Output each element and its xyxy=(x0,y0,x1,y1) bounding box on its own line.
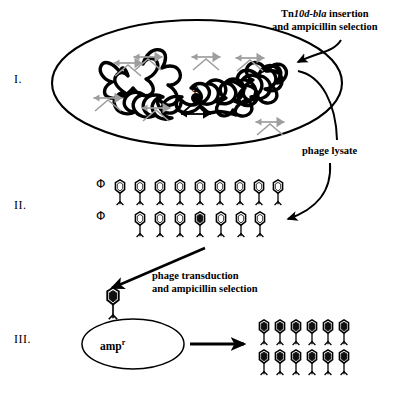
cropped-bottom-text xyxy=(238,388,240,396)
phage-particle-loaded xyxy=(275,320,284,345)
phage-lysate-caption: phage lysate xyxy=(302,145,357,158)
amp-resistance-superscript: r xyxy=(122,338,126,347)
stage3-progeny-row-1 xyxy=(259,320,348,345)
phage-particle xyxy=(135,212,144,237)
phage-particle-loaded xyxy=(323,320,332,345)
stage3-infecting-phage xyxy=(107,288,119,320)
transduction-caption-line-2: and ampicillin selection xyxy=(152,283,258,296)
transposon-insertion-marker xyxy=(236,53,265,71)
phage-particle xyxy=(115,180,124,205)
phage-particle-loaded xyxy=(291,350,300,375)
diagram-vector-layer xyxy=(0,0,415,397)
stage-numeral-1: I. xyxy=(14,72,22,87)
phage-particle-loaded xyxy=(339,350,348,375)
insertion-caption-gene: 10d-bla xyxy=(294,8,327,19)
phage-particle-loaded xyxy=(259,320,268,345)
insertion-caption: Tn10d-bla insertion and ampicillin selec… xyxy=(272,8,378,33)
phage-particle-loaded xyxy=(339,320,348,345)
phage-particle xyxy=(216,212,225,237)
phi-label-chromosome: Φ xyxy=(191,84,199,95)
phage-particle xyxy=(195,180,204,205)
phage-particle-loaded xyxy=(195,212,204,237)
phage-particle-loaded xyxy=(323,350,332,375)
stage-numeral-3: III. xyxy=(14,332,31,347)
phage-particle xyxy=(235,180,244,205)
phage-particle-loaded xyxy=(307,320,316,345)
amp-resistance-label: ampr xyxy=(100,338,125,352)
recipient-cell xyxy=(82,319,184,369)
stage1-donor-cell xyxy=(52,20,342,146)
figure-canvas: I. II. III. Tn10d-bla insertion and ampi… xyxy=(0,0,415,397)
insertion-caption-suffix: insertion xyxy=(326,8,368,19)
phage-particle xyxy=(135,180,144,205)
transposon-insertion-marker xyxy=(256,117,285,135)
phage-particle xyxy=(255,212,264,237)
stage3-progeny-row-2 xyxy=(259,350,348,375)
phage-particle xyxy=(273,180,282,205)
lysate-leader-curve xyxy=(298,71,337,140)
phage-particle xyxy=(155,180,164,205)
phage-particle xyxy=(175,180,184,205)
transduction-caption: phage transduction and ampicillin select… xyxy=(152,270,258,295)
phage-particle-loaded xyxy=(307,350,316,375)
phage-particle-loaded xyxy=(291,320,300,345)
phage-particle xyxy=(254,180,263,205)
insertion-leader-arrow xyxy=(298,40,341,62)
stage-numeral-2: II. xyxy=(14,198,27,213)
insertion-caption-line-2: and ampicillin selection xyxy=(272,21,378,34)
insertion-caption-prefix: Tn xyxy=(281,8,294,19)
transduction-caption-line-1: phage transduction xyxy=(152,270,258,283)
phage-particle xyxy=(215,180,224,205)
stage2-phage-row-2 xyxy=(135,212,264,237)
transposon-insertion-marker xyxy=(192,52,221,70)
amp-resistance-text: amp xyxy=(100,340,122,352)
phi-label-row-1: Φ xyxy=(96,177,105,191)
insertion-caption-line-1: Tn10d-bla insertion xyxy=(272,8,378,21)
phage-particle xyxy=(175,212,184,237)
stage2-phage-row-1 xyxy=(115,180,282,205)
phage-particle-loaded xyxy=(259,350,268,375)
phage-particle-loaded xyxy=(275,350,284,375)
phi-label-row-2: Φ xyxy=(96,209,105,223)
phage-particle xyxy=(236,212,245,237)
lysate-arrow xyxy=(288,163,330,219)
phage-particle xyxy=(155,212,164,237)
